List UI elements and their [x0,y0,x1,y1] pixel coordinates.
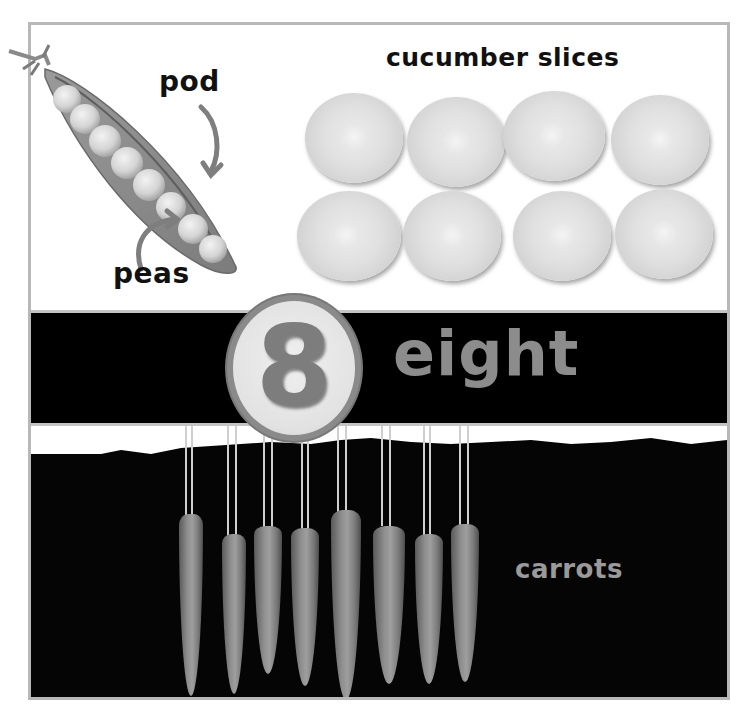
carrot-stem [459,426,461,526]
carrot-stem [263,426,265,530]
cucumber-slice [611,95,709,185]
number-badge-inner: 8 [233,301,355,435]
number-band [31,313,727,423]
number-badge: 8 [227,295,361,441]
carrot-stem [191,426,193,518]
carrot-stem [429,426,431,536]
carrot-stem [345,426,347,512]
carrot-stem [227,426,229,536]
carrot-stem [381,426,383,526]
cucumber-slice [503,91,605,181]
cucumber-slice [615,189,713,279]
carrot-stem [423,426,425,536]
top-panel: pod peas cucumber slices [31,25,727,310]
pod-arrow-icon [191,103,231,183]
carrot-panel: carrots [31,426,727,697]
carrot-stem [271,426,273,532]
cucumber-slice [305,93,403,183]
cucumber-slice [407,97,505,187]
number-word: eight [393,323,579,385]
cucumber-slice [403,191,501,281]
numeral: 8 [256,311,333,421]
cucumber-slice [297,191,401,281]
carrot-stem [307,426,309,534]
carrot-stem [337,426,339,512]
cucumber-title: cucumber slices [386,43,619,72]
peas-label: peas [113,257,190,290]
page-frame: pod peas cucumber slices [28,22,730,700]
cucumber-slice [513,191,611,281]
carrot-stem [235,426,237,536]
carrots-label: carrots [515,554,623,584]
pod-label: pod [159,65,220,98]
carrot-stem [301,426,303,534]
carrot-stem [467,426,469,526]
carrot-stem [185,426,187,516]
carrot-stem [389,426,391,526]
